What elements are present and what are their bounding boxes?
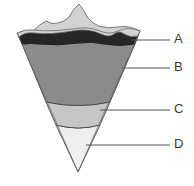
layer-b-mantle (22, 42, 135, 105)
label-d: D (174, 136, 183, 151)
diagram-canvas: A B C D (0, 0, 194, 186)
earth-cross-section-diagram: A B C D (0, 0, 194, 186)
label-b: B (174, 59, 183, 74)
label-a: A (174, 31, 183, 46)
layer-d-inner-core (56, 125, 100, 172)
label-c: C (174, 101, 183, 116)
